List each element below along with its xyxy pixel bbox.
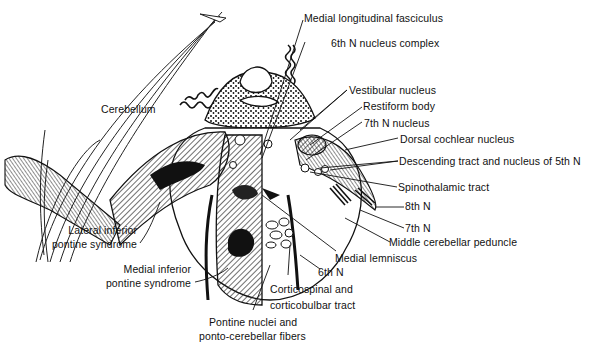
label-middle-cerebellar-peduncle: Middle cerebellar peduncle xyxy=(389,236,517,248)
label-medial-syndrome-line2: pontine syndrome xyxy=(90,277,191,289)
label-sixth-nucleus-complex: 6th N nucleus complex xyxy=(331,37,439,49)
label-dorsal-cochlear-nucleus: Dorsal cochlear nucleus xyxy=(400,133,514,145)
label-pontine-nuclei-line1: Pontine nuclei and xyxy=(209,316,297,328)
pons-diagram: Cerebellum Medial longitudinal fasciculu… xyxy=(0,0,594,342)
label-medial-syndrome-line1: Medial inferior xyxy=(100,263,191,275)
label-vestibular-nucleus: Vestibular nucleus xyxy=(349,84,436,96)
label-medial-lemniscus: Medial lemniscus xyxy=(335,252,417,264)
label-restiform-body: Restiform body xyxy=(363,100,435,112)
label-lateral-syndrome-line2: pontine syndrome xyxy=(40,238,137,250)
label-seventh-nerve: 7th N xyxy=(405,222,431,234)
label-corticospinal-line2: corticobulbar tract xyxy=(270,299,355,311)
label-descending-tract-5th: Descending tract and nucleus of 5th N xyxy=(399,155,581,167)
label-pontine-nuclei-line2: ponto-cerebellar fibers xyxy=(199,330,306,342)
tegmentum xyxy=(205,67,315,128)
label-medial-longitudinal-fasciculus: Medial longitudinal fasciculus xyxy=(304,12,443,24)
label-cerebellum: Cerebellum xyxy=(101,103,156,115)
label-seventh-nerve-nucleus: 7th N nucleus xyxy=(364,117,430,129)
label-corticospinal-line1: Corticospinal and xyxy=(270,283,353,295)
label-sixth-nerve: 6th N xyxy=(318,266,344,278)
medial-syndrome-region xyxy=(216,135,262,305)
label-eighth-nerve: 8th N xyxy=(405,200,431,212)
label-lateral-syndrome-line1: Lateral inferior xyxy=(60,224,137,236)
label-spinothalamic-tract: Spinothalamic tract xyxy=(398,181,489,193)
seventh-nucleus-shape xyxy=(298,135,326,155)
